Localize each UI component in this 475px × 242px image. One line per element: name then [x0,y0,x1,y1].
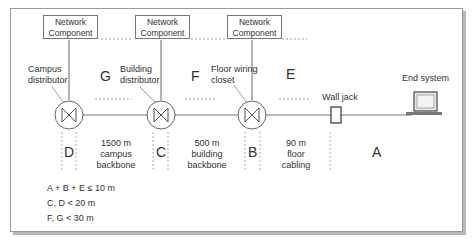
building-distributor-icon [147,101,175,129]
end-system-computer-icon [406,92,442,115]
wall-jack-icon [331,107,341,123]
segment-a-label: A [372,144,381,160]
network-component-1: Network Component [43,15,98,39]
label-line: Campus [28,64,68,75]
label-line: closet [211,75,258,86]
floor-wiring-closet-label: Floor wiring closet [211,64,258,86]
rule-cd: C, D < 20 m [47,198,95,209]
label-line: cabling [276,160,316,171]
segment-d-label: D [64,144,74,160]
nc-label: Network [44,17,97,28]
nc-label: Network [228,17,281,28]
floor-callout-line [234,85,247,103]
floor-distributor-icon [238,101,266,129]
label-line: Building [120,64,160,75]
label-line: floor [276,149,316,160]
wall-jack-label: Wall jack [322,92,358,103]
label-line: campus [96,149,136,160]
rule-fg: F, G < 30 m [47,213,94,224]
segment-c-label: C [156,144,166,160]
label-line: building [187,149,227,160]
label-line: distributor [120,75,160,86]
floor-cabling-label: 90 m floor cabling [276,138,316,171]
label-line: distributor [28,75,68,86]
campus-distributor-label: Campus distributor [28,64,68,86]
rule-abe: A + B + E ≤ 10 m [47,183,115,194]
nc-label: Component [44,28,97,39]
network-component-2: Network Component [135,15,190,39]
label-line: 500 m [187,138,227,149]
building-callout-line [140,87,156,103]
segment-f-label: F [191,68,200,84]
building-distributor-label: Building distributor [120,64,160,86]
segment-g-label: G [100,68,111,84]
campus-callout-line [52,87,64,103]
label-line: 1500 m [96,138,136,149]
campus-distributor-icon [55,101,83,129]
nc-label: Component [228,28,281,39]
campus-backbone-label: 1500 m campus backbone [96,138,136,171]
label-line: Floor wiring [211,64,258,75]
nc-label: Component [136,28,189,39]
label-line: 90 m [276,138,316,149]
building-backbone-label: 500 m building backbone [187,138,227,171]
segment-b-label: B [248,144,257,160]
nc-label: Network [136,17,189,28]
label-line: backbone [187,160,227,171]
network-component-3: Network Component [227,15,282,39]
label-line: backbone [96,160,136,171]
end-system-label: End system [402,73,449,84]
segment-e-label: E [286,66,295,82]
